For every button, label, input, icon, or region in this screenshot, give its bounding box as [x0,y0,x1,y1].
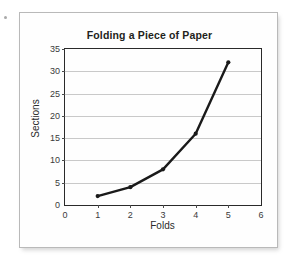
y-tick-label: 20 [50,111,60,121]
x-tick-label: 0 [62,210,67,220]
x-tick-mark [130,205,131,208]
x-tick-label: 1 [95,210,100,220]
x-tick-label: 4 [193,210,198,220]
data-point [226,60,230,64]
x-tick-mark [228,205,229,208]
x-axis-title: Folds [64,220,261,231]
data-point [161,167,165,171]
plot-area: 05101520253035 0123456 [64,48,262,206]
data-point [128,185,132,189]
y-tick-label: 5 [55,178,60,188]
chart-title: Folding a Piece of Paper [20,29,279,41]
y-tick-label: 35 [50,44,60,54]
x-tick-label: 6 [258,210,263,220]
x-tick-label: 3 [160,210,165,220]
line-series-sections [65,49,261,205]
x-tick-mark [98,205,99,208]
y-tick-label: 25 [50,89,60,99]
data-point [194,132,198,136]
y-tick-label: 30 [50,66,60,76]
figure-card: Folding a Piece of Paper Sections Folds … [19,12,278,248]
x-tick-mark [196,205,197,208]
x-tick-label: 5 [226,210,231,220]
data-point [96,194,100,198]
page-speck [4,16,7,19]
y-tick-label: 0 [55,200,60,210]
y-axis-title: Sections [30,84,41,154]
x-tick-label: 2 [128,210,133,220]
y-tick-label: 15 [50,133,60,143]
y-tick-label: 10 [50,155,60,165]
x-tick-mark [163,205,164,208]
